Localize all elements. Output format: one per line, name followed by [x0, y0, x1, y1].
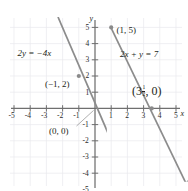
y-tick-label-2: 2 — [86, 72, 90, 80]
y-tick-label--1: -1 — [83, 121, 89, 129]
y-tick-label--3: -3 — [83, 153, 89, 161]
y-tick-label--4: -4 — [83, 170, 89, 178]
y-tick-label-5: 5 — [86, 24, 90, 32]
y-tick-label--5: -5 — [83, 186, 89, 191]
x-tick-label-3: 3 — [142, 112, 146, 120]
y-tick-label-1: 1 — [86, 89, 90, 97]
point-marker-neg1-2 — [77, 74, 81, 78]
point-marker-3half-0 — [150, 106, 154, 110]
x-tick-label--2: -2 — [57, 112, 63, 120]
x-tick-label-4: 4 — [158, 112, 162, 120]
x-axis-label: x — [181, 110, 185, 118]
point-label-neg1-2: (−1, 2) — [45, 80, 70, 89]
x-tick-label-5: 5 — [174, 112, 178, 120]
y-tick-label-3: 3 — [86, 56, 90, 64]
y-tick-label--2: -2 — [83, 137, 89, 145]
x-tick-label--1: -1 — [73, 112, 79, 120]
point-label-origin: (0, 0) — [49, 127, 69, 136]
x-tick-label-2: 2 — [125, 112, 129, 120]
x-tick-label-1: 1 — [109, 112, 113, 120]
x-tick-label--3: -3 — [41, 112, 47, 120]
equation-label-right: 2x + y = 7 — [120, 50, 158, 59]
y-tick-label-4: 4 — [86, 40, 90, 48]
graph-figure: -5 -4 -3 -2 -1 1 2 3 4 5 5 4 3 2 1 -1 -2… — [0, 0, 188, 191]
point-label-1-5: (1, 5) — [117, 26, 137, 35]
equation-label-left: 2y = −4x — [18, 49, 52, 58]
point-label-3half-0-prefix: (3 — [132, 84, 142, 98]
y-axis-label: y — [90, 15, 94, 23]
point-label-3half-0-suffix: , 0) — [146, 84, 162, 98]
x-tick-label--5: -5 — [9, 112, 15, 120]
point-label-3half-0: (312, 0) — [132, 85, 162, 97]
point-marker-1-5 — [109, 25, 113, 29]
line-2y-equals-neg4x — [50, 0, 112, 143]
x-tick-label--4: -4 — [25, 112, 31, 120]
